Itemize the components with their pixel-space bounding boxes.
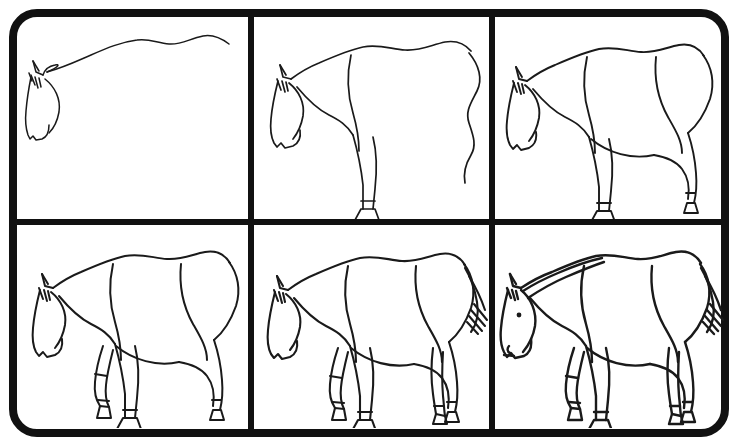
forelock-wisp (282, 81, 285, 92)
belly-line (351, 348, 414, 366)
belly-line (587, 348, 650, 366)
far-hind-leg-front (432, 348, 437, 414)
front-hoof (591, 211, 615, 219)
jaw-cheek-curve (45, 79, 59, 133)
hindquarter-guide-line (464, 53, 480, 183)
front-hoof (352, 420, 376, 428)
stifle-line (652, 266, 679, 362)
forelock-wisp (522, 84, 524, 93)
mane-inner-line (528, 262, 604, 298)
knee-joint (330, 376, 342, 378)
topline (288, 254, 465, 290)
far-hind-leg-front (668, 348, 673, 414)
stifle-line (181, 264, 208, 360)
tutorial-sheet (0, 0, 738, 446)
front-hoof (588, 420, 612, 428)
far-fetlock-line (569, 402, 580, 403)
step-1-drawing (17, 17, 249, 219)
front-hoof (355, 209, 379, 219)
forelock-wisp (39, 78, 41, 87)
near-hind-leg-front (654, 155, 689, 199)
tail-hair-strand (469, 316, 482, 331)
near-foreleg-front-edge (353, 135, 363, 209)
far-foreleg-back-edge (106, 350, 113, 407)
far-fetlock-line (333, 402, 344, 403)
forelock-wisp (279, 292, 282, 303)
front-hoof (117, 418, 141, 428)
hind-hoof (210, 410, 224, 420)
nostril-icon (508, 346, 510, 353)
far-front-hoof (97, 406, 111, 418)
belly-line (591, 139, 654, 157)
tail-hair-strand (705, 316, 718, 331)
belly-line (116, 346, 179, 364)
near-foreleg-back-edge (373, 137, 376, 209)
far-foreleg-back-edge (341, 352, 348, 409)
neck-underline (533, 89, 589, 137)
forelock-wisp (48, 291, 50, 300)
step-2-drawing (255, 17, 489, 219)
jaw-cheek-curve (521, 290, 535, 352)
forelock-wisp (512, 290, 515, 300)
forelock-wisp (35, 77, 38, 88)
knee-joint (95, 374, 107, 376)
near-hind-leg-front (179, 362, 214, 406)
forelock-wisp (286, 82, 288, 91)
forelock-wisp (516, 291, 518, 299)
far-front-hoof (568, 408, 582, 420)
rump-outline (688, 55, 712, 133)
neck-underline (59, 296, 115, 344)
forelock-wisp (283, 293, 285, 302)
neck-underline (294, 298, 350, 346)
mouth-line (504, 355, 514, 356)
far-fetlock-line (98, 400, 109, 401)
step-4-drawing (17, 228, 249, 428)
neck-underline (297, 87, 353, 135)
rump-outline (214, 262, 238, 340)
forelock-wisp (518, 83, 521, 94)
mane-outline (523, 258, 602, 291)
topline (527, 45, 704, 81)
tail-hair-strand (474, 304, 487, 320)
topline (53, 252, 230, 288)
topline (291, 41, 471, 79)
neck-underline (530, 298, 586, 346)
far-foreleg-back-edge (577, 352, 584, 409)
forelock-wisp (44, 290, 47, 301)
step-6-drawing (496, 228, 725, 428)
step-3-drawing (496, 17, 725, 219)
topline (521, 252, 701, 288)
stifle-line (656, 57, 683, 153)
hind-hoof (684, 203, 698, 213)
eye-icon (517, 313, 522, 318)
topline-guide-stroke (47, 35, 229, 72)
far-front-hoof (332, 408, 346, 420)
step-5-drawing (255, 228, 489, 428)
stifle-line (416, 266, 443, 362)
